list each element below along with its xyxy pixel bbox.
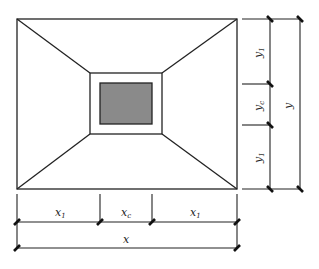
slope-line-bottom-right (162, 134, 237, 189)
label-x1-right: x1 (190, 206, 201, 220)
label-xc: xc (121, 206, 131, 220)
slope-line-bottom-left (17, 134, 90, 189)
slope-line-top-right (162, 19, 237, 73)
label-y1-bottom: y1 (252, 152, 266, 164)
column-section (100, 83, 152, 124)
label-x: x (123, 233, 130, 246)
footing-diagram: x1 xc x1 x y1 yc y1 y (0, 0, 319, 269)
slope-line-top-left (17, 19, 90, 73)
label-y1-top: y1 (252, 47, 266, 59)
label-y: y (282, 102, 295, 110)
label-x1-left: x1 (55, 206, 66, 220)
label-yc: yc (252, 101, 266, 112)
